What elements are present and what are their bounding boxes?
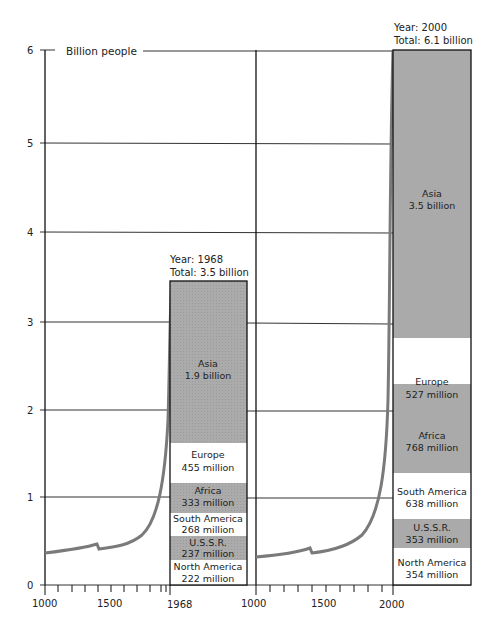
svg-text:Africa: Africa [194,485,221,496]
svg-text:Year: 2000: Year: 2000 [393,22,447,33]
x-tick-labels: 1000 1500 1968 1000 1500 2000 [32,598,404,610]
svg-text:237 million: 237 million [182,548,235,559]
svg-text:Africa: Africa [418,430,445,441]
svg-text:268 million: 268 million [182,524,235,535]
svg-text:Europe: Europe [415,376,449,387]
svg-text:527 million: 527 million [406,389,459,400]
svg-text:Asia: Asia [198,358,218,369]
svg-text:South America: South America [397,486,467,497]
svg-text:6: 6 [27,45,33,56]
svg-text:Europe: Europe [191,449,225,460]
svg-text:1: 1 [27,492,33,503]
svg-text:4: 4 [27,227,33,238]
svg-text:455 million: 455 million [182,462,235,473]
svg-text:333 million: 333 million [182,497,235,508]
svg-text:5: 5 [27,138,33,149]
svg-text:3.5 billion: 3.5 billion [409,200,456,211]
population-curve-2000 [256,50,393,557]
svg-text:1000: 1000 [241,598,266,609]
svg-text:638 million: 638 million [406,498,459,509]
svg-text:Total: 3.5 billion: Total: 3.5 billion [169,267,249,278]
y-axis-label: Billion people [66,45,137,57]
svg-text:South America: South America [173,513,243,524]
svg-text:U.S.S.R.: U.S.S.R. [413,522,450,533]
svg-text:North America: North America [398,557,467,568]
svg-text:1500: 1500 [311,598,336,609]
svg-text:2: 2 [27,405,33,416]
svg-text:Total: 6.1 billion: Total: 6.1 billion [393,35,473,46]
svg-text:North America: North America [174,561,243,572]
svg-text:0: 0 [27,580,33,591]
svg-text:2000: 2000 [379,599,404,610]
svg-text:Asia: Asia [422,188,442,199]
svg-text:353 million: 353 million [406,534,459,545]
x-ticks-right [256,585,393,595]
svg-text:1968: 1968 [167,599,192,610]
bar-2000-header: Year: 2000 Total: 6.1 billion [393,22,473,46]
svg-text:354 million: 354 million [406,569,459,580]
svg-text:1500: 1500 [97,598,122,609]
svg-text:Year: 1968: Year: 1968 [169,254,223,265]
svg-text:1000: 1000 [32,598,57,609]
population-chart: 6 5 4 3 2 1 0 Billion people 1000 1500 1… [0,0,495,639]
y-tick-labels: 6 5 4 3 2 1 0 [27,45,33,591]
svg-text:1.9 billion: 1.9 billion [185,370,232,381]
svg-text:3: 3 [27,317,33,328]
x-ticks-left [45,585,170,595]
svg-text:U.S.S.R.: U.S.S.R. [189,537,226,548]
bar-1968-header: Year: 1968 Total: 3.5 billion [169,254,249,278]
svg-text:768 million: 768 million [406,442,459,453]
svg-text:222 million: 222 million [182,573,235,584]
